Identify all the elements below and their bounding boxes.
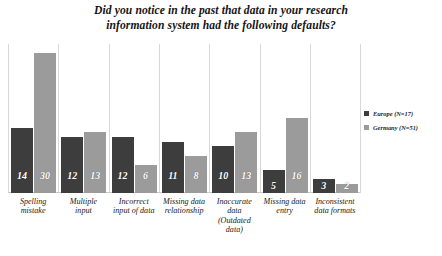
category-label-line: Spelling [5,197,61,206]
bar-group: 32 [310,44,360,193]
bar-value-label: 6 [135,170,157,181]
bar-value-label: 13 [84,170,106,181]
category-label-line: data formats [307,206,363,215]
bar-germany[interactable]: 2 [336,184,358,193]
bar-germany[interactable]: 6 [135,165,157,193]
category-label-line: (Outdated [206,216,262,225]
legend-swatch-icon-germany [364,125,369,130]
legend-item-germany[interactable]: Germany (N=51) [364,124,442,131]
category-label-line: data) [206,225,262,234]
legend-item-europe[interactable]: Europe (N=17) [364,110,442,117]
bar-germany[interactable]: 13 [84,132,106,193]
bar-germany[interactable]: 30 [34,53,56,193]
bar-group: 118 [159,44,209,193]
legend-swatch-icon-europe [364,111,369,116]
bar-value-label: 10 [212,170,234,181]
category-label: Spellingmistake [5,197,61,216]
chart-title-line-2: information system had the following def… [0,18,442,33]
category-label-line: Inaccurate [206,197,262,206]
category-label-line: Missing data [156,197,212,206]
bar-europe[interactable]: 5 [263,170,285,193]
category-label-line: Missing data [257,197,313,206]
bar-europe[interactable]: 12 [61,137,83,193]
bar-value-label: 5 [263,180,285,191]
category-label: Incorrectinput of data [106,197,162,216]
bar-group: 1213 [58,44,108,193]
legend-label-germany: Germany (N=51) [373,124,418,131]
category-label: Inconsistentdata formats [307,197,363,216]
bar-value-label: 30 [34,170,56,181]
category-label: Multipleinput [55,197,111,216]
bar-group: 516 [260,44,310,193]
bar-value-label: 8 [185,170,207,181]
category-label: Inaccuratedata(Outdateddata) [206,197,262,235]
category-label-line: Incorrect [106,197,162,206]
bar-value-label: 3 [313,180,335,191]
chart-title-line-1: Did you notice in the past that data in … [0,3,442,18]
group-separator [360,44,361,193]
legend-label-europe: Europe (N=17) [373,110,413,117]
category-label-line: input [55,206,111,215]
bar-europe[interactable]: 11 [162,142,184,193]
bar-value-label: 2 [336,180,358,191]
category-label-line: Multiple [55,197,111,206]
bar-europe[interactable]: 3 [313,179,335,193]
category-label-line: entry [257,206,313,215]
category-label-line: mistake [5,206,61,215]
category-label-line: Inconsistent [307,197,363,206]
bar-europe[interactable]: 12 [112,137,134,193]
category-label-line: data [206,206,262,215]
category-label: Missing dataentry [257,197,313,216]
bar-germany[interactable]: 8 [185,156,207,193]
category-label-line: relationship [156,206,212,215]
category-label: Missing datarelationship [156,197,212,216]
bar-germany[interactable]: 13 [235,132,257,193]
bar-group: 1430 [8,44,58,193]
bar-value-label: 14 [11,170,33,181]
chart-title: Did you notice in the past that data in … [0,3,442,33]
chart-legend: Europe (N=17) Germany (N=51) [364,110,442,138]
category-label-line: input of data [106,206,162,215]
bar-value-label: 11 [162,170,184,181]
bar-value-label: 16 [286,170,308,181]
bar-group: 126 [109,44,159,193]
bar-europe[interactable]: 10 [212,146,234,193]
bar-value-label: 12 [61,170,83,181]
bar-value-label: 12 [112,170,134,181]
bar-europe[interactable]: 14 [11,128,33,193]
bar-group: 1013 [209,44,259,193]
bar-germany[interactable]: 16 [286,118,308,193]
bar-value-label: 13 [235,170,257,181]
